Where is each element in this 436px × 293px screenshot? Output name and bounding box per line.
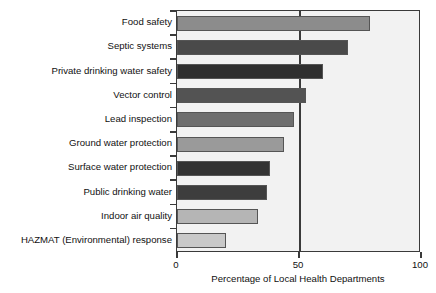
x-axis-tick-label: 100 xyxy=(400,259,436,271)
y-axis-tick xyxy=(170,131,176,133)
bar xyxy=(177,40,348,55)
y-axis-label: Surface water protection xyxy=(0,161,172,172)
x-axis-tick xyxy=(298,252,300,258)
bar xyxy=(177,64,323,79)
x-axis-title: Percentage of Local Health Departments xyxy=(176,273,420,285)
bar-row xyxy=(177,205,419,229)
x-axis-tick xyxy=(420,252,422,258)
y-axis-label: Indoor air quality xyxy=(0,210,172,221)
bar xyxy=(177,233,226,248)
y-axis-tick xyxy=(170,179,176,181)
y-axis-tick xyxy=(170,58,176,60)
x-axis-tick-label: 0 xyxy=(156,259,196,271)
x-axis-tick-label: 50 xyxy=(278,259,318,271)
bar-row xyxy=(177,156,419,180)
y-axis-label: Septic systems xyxy=(0,40,172,51)
y-axis-label: Public drinking water xyxy=(0,186,172,197)
y-axis-tick xyxy=(170,107,176,109)
y-axis-tick xyxy=(170,10,176,12)
bar-row xyxy=(177,108,419,132)
bar xyxy=(177,209,258,224)
bar-row xyxy=(177,11,419,35)
bar-row xyxy=(177,84,419,108)
y-axis-tick xyxy=(170,34,176,36)
y-axis-label: Lead inspection xyxy=(0,113,172,124)
y-axis-tick xyxy=(170,228,176,230)
bar-row xyxy=(177,229,419,253)
plot-area xyxy=(176,10,420,252)
y-axis-tick xyxy=(170,155,176,157)
bar-row xyxy=(177,180,419,204)
bar xyxy=(177,161,270,176)
bar xyxy=(177,88,306,103)
y-axis-label: Ground water protection xyxy=(0,137,172,148)
bar xyxy=(177,112,294,127)
bar-row xyxy=(177,35,419,59)
bar xyxy=(177,137,284,152)
bar-row xyxy=(177,132,419,156)
y-axis-tick xyxy=(170,83,176,85)
y-axis-tick xyxy=(170,204,176,206)
bar-chart: Food safetySeptic systemsPrivate drinkin… xyxy=(0,0,436,293)
bar xyxy=(177,185,267,200)
y-axis-label: Food safety xyxy=(0,16,172,27)
y-axis-label: Vector control xyxy=(0,89,172,100)
y-axis-label: HAZMAT (Environmental) response xyxy=(0,234,172,245)
x-axis-tick xyxy=(176,252,178,258)
bar-row xyxy=(177,59,419,83)
bar xyxy=(177,16,370,31)
y-axis-label: Private drinking water safety xyxy=(0,65,172,76)
